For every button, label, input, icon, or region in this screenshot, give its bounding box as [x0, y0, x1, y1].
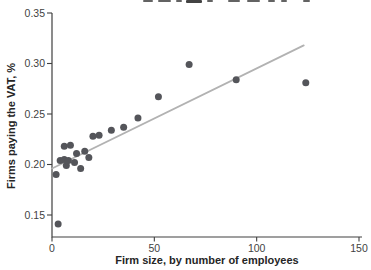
x-axis-title: Firm size, by number of employees	[52, 254, 362, 266]
data-point	[120, 124, 127, 131]
data-point	[96, 132, 103, 139]
data-point	[155, 93, 162, 100]
data-point	[77, 165, 84, 172]
y-axis-tick-label: 0.20	[25, 158, 46, 170]
data-point	[61, 143, 68, 150]
x-axis-tick-label: 100	[248, 242, 266, 254]
y-axis-tick-label: 0.35	[25, 7, 46, 19]
data-point	[65, 157, 72, 164]
y-axis-tick-label: 0.30	[25, 57, 46, 69]
data-point	[67, 142, 74, 149]
x-axis-tick-label: 150	[350, 242, 368, 254]
axis-frame	[52, 13, 362, 237]
plot-area: 0.150.200.250.300.35050100150	[0, 0, 371, 270]
y-axis-tick-label: 0.15	[25, 209, 46, 221]
x-axis-tick-label: 0	[49, 242, 55, 254]
data-point	[55, 221, 62, 228]
data-point	[73, 150, 80, 157]
data-point	[53, 171, 60, 178]
data-point	[302, 79, 309, 86]
data-point	[233, 76, 240, 83]
x-axis-tick-label: 50	[148, 242, 160, 254]
data-point	[108, 127, 115, 134]
data-point	[71, 159, 78, 166]
data-point	[89, 133, 96, 140]
scatter-chart: 0.150.200.250.300.35050100150 Firms payi…	[0, 0, 371, 270]
data-point	[81, 148, 88, 155]
trend-line	[52, 45, 304, 168]
y-axis-title: Firms paying the VAT, %	[5, 63, 17, 189]
data-point	[85, 154, 92, 161]
y-axis-tick-label: 0.25	[25, 108, 46, 120]
data-point	[186, 61, 193, 68]
data-point	[134, 115, 141, 122]
